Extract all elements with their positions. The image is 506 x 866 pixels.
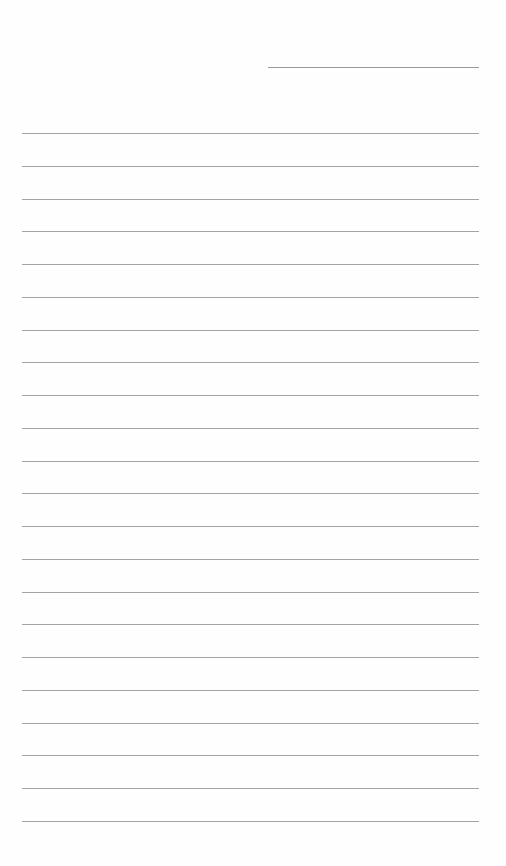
ruled-line — [22, 166, 479, 167]
lined-paper-page — [0, 0, 506, 866]
ruled-line — [22, 395, 479, 396]
ruled-line — [22, 297, 479, 298]
ruled-line — [22, 755, 479, 756]
ruled-line — [22, 723, 479, 724]
ruled-line — [22, 690, 479, 691]
ruled-line — [22, 592, 479, 593]
ruled-lines — [0, 0, 506, 866]
ruled-line — [22, 461, 479, 462]
ruled-line — [22, 559, 479, 560]
ruled-line — [22, 362, 479, 363]
ruled-line — [22, 231, 479, 232]
ruled-line — [22, 821, 479, 822]
ruled-line — [22, 493, 479, 494]
ruled-line — [22, 264, 479, 265]
ruled-line — [22, 133, 479, 134]
ruled-line — [22, 330, 479, 331]
ruled-line — [22, 657, 479, 658]
ruled-line — [22, 526, 479, 527]
ruled-line — [22, 788, 479, 789]
ruled-line — [22, 199, 479, 200]
ruled-line — [22, 428, 479, 429]
ruled-line — [22, 624, 479, 625]
